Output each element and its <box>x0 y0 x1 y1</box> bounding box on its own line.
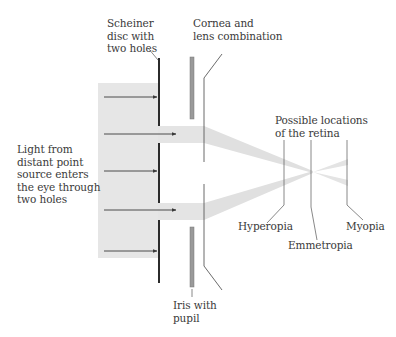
iris-bar-upper <box>190 57 194 119</box>
light-source-label: Light from distant point source enters t… <box>17 143 100 206</box>
lower-beam-converging <box>204 171 313 220</box>
upper-beam <box>158 126 204 143</box>
myopia-label: Myopia <box>346 220 385 233</box>
cornea-lens-line <box>204 54 222 290</box>
retina-locations-label: Possible locations of the retina <box>275 114 368 139</box>
hyperopia-label: Hyperopia <box>238 220 293 233</box>
lower-beam <box>158 203 204 220</box>
emmetropia-label: Emmetropia <box>288 239 353 252</box>
iris-bar-lower <box>190 227 194 287</box>
upper-beam-diverging <box>313 159 348 172</box>
myopia-line <box>347 140 363 220</box>
scheiner-disc-label: Scheiner disc with two holes <box>107 17 157 55</box>
lower-beam-diverging <box>313 172 348 186</box>
cornea-lens-label: Cornea and lens combination <box>193 17 282 42</box>
emmetropia-line <box>311 140 317 240</box>
leader-lines <box>148 48 363 297</box>
incoming-light-field <box>98 83 158 258</box>
iris-label: Iris with pupil <box>173 299 217 324</box>
